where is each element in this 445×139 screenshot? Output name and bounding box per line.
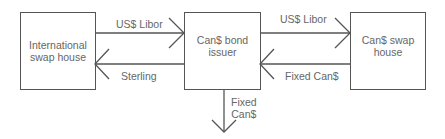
node-label: International bbox=[29, 39, 87, 51]
node-international-swap-house: Internationalswap house bbox=[20, 12, 96, 90]
edge-label: US$ Libor bbox=[280, 13, 327, 25]
node-label: Can$ swap bbox=[362, 34, 415, 46]
edge-label: Fixed Can$ bbox=[285, 70, 339, 82]
node-can-swap-house: Can$ swaphouse bbox=[350, 12, 426, 90]
edge-label-line: Can$ bbox=[231, 108, 256, 120]
edge-label: US$ Libor bbox=[116, 18, 163, 30]
node-label: Can$ bond bbox=[197, 34, 248, 46]
node-label: house bbox=[374, 46, 403, 58]
edge-label-line: Fixed bbox=[231, 96, 257, 108]
node-can-bond-issuer: Can$ bondissuer bbox=[184, 12, 261, 90]
node-label: swap house bbox=[30, 51, 86, 63]
edge-label: Fixed Can$ bbox=[231, 96, 257, 120]
node-label: issuer bbox=[208, 46, 236, 58]
edge-label: Sterling bbox=[121, 70, 157, 82]
